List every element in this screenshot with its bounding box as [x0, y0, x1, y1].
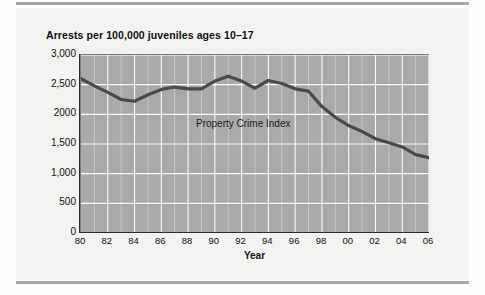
x-axis-tick-label: 94: [255, 235, 279, 246]
x-axis-title: Year: [80, 250, 429, 261]
y-axis-tick-label: 500: [28, 196, 76, 207]
x-axis-tick-label: 98: [309, 235, 333, 246]
chart-figure: Arrests per 100,000 juveniles ages 10–17…: [0, 0, 485, 295]
plot-svg: [81, 55, 429, 233]
chart-title: Arrests per 100,000 juveniles ages 10–17: [46, 29, 254, 41]
y-axis-tick-label: 2,500: [28, 78, 76, 89]
x-axis-tick-label: 86: [148, 235, 172, 246]
y-axis-tick-label: 3,000: [28, 48, 76, 59]
x-axis-tick-label: 00: [336, 235, 360, 246]
x-axis-tick-label: 80: [68, 235, 92, 246]
top-rule: [16, 2, 469, 5]
x-axis-tick-label: 06: [416, 235, 440, 246]
x-axis-tick-label: 04: [389, 235, 413, 246]
y-axis-line: [79, 54, 80, 233]
x-axis-tick-label: 90: [202, 235, 226, 246]
x-axis-tick-label: 88: [175, 235, 199, 246]
x-axis-tick-label: 02: [362, 235, 386, 246]
x-axis-tick-label: 84: [122, 235, 146, 246]
y-axis-tick-label: 1,500: [28, 137, 76, 148]
x-axis-tick-label: 92: [229, 235, 253, 246]
x-axis-tick-label: 82: [95, 235, 119, 246]
x-axis-line: [80, 232, 429, 233]
x-axis-ticks: 8082848688909294969800020406: [0, 235, 485, 251]
plot-area: [80, 54, 429, 233]
y-axis-tick-label: 1,000: [28, 167, 76, 178]
y-axis-tick-label: 2000: [28, 107, 76, 118]
series-annotation-label: Property Crime Index: [196, 118, 290, 129]
x-axis-tick-label: 96: [282, 235, 306, 246]
bottom-rule: [16, 281, 469, 284]
